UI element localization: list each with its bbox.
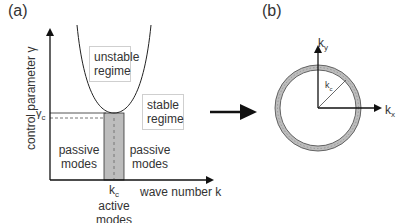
kc-radius-label: kc	[325, 78, 333, 96]
passive-modes-right: passive modes	[128, 143, 172, 171]
passive-right-line1: passive	[128, 143, 172, 157]
stable-regime-box: stable regime	[142, 94, 184, 130]
active-modes-band	[104, 113, 124, 180]
active-modes-label: active modes	[94, 199, 134, 223]
panel-b-plot	[275, 47, 380, 151]
ky-label: ky	[318, 36, 328, 55]
active-line2: modes	[94, 213, 134, 223]
x-axis-label: wave number k	[140, 185, 221, 199]
panel-a-label: (a)	[8, 4, 28, 18]
stable-line1: stable	[147, 98, 179, 112]
y-axis-label: control parameter γ	[24, 47, 38, 150]
unstable-line1: unstable	[94, 50, 126, 64]
active-line1: active	[94, 199, 134, 213]
kx-label: kx	[385, 103, 395, 122]
passive-modes-left: passive modes	[57, 143, 101, 171]
transition-arrow	[210, 104, 257, 120]
unstable-regime-box: unstable regime	[89, 46, 131, 82]
gamma-c-label: γc	[36, 106, 46, 125]
unstable-line2: regime	[94, 64, 126, 78]
stable-line2: regime	[147, 112, 179, 126]
passive-left-line2: modes	[57, 157, 101, 171]
panel-b-label: (b)	[262, 4, 282, 18]
passive-right-line2: modes	[128, 157, 172, 171]
passive-left-line1: passive	[57, 143, 101, 157]
